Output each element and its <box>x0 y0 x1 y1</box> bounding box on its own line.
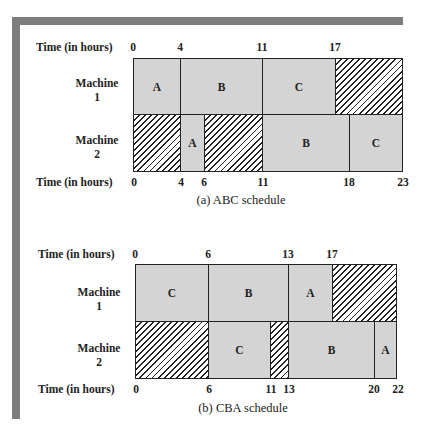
job-block-a: A <box>180 114 205 172</box>
idle-block <box>135 321 209 379</box>
time-axis-label-bottom: Time (in hours) <box>36 176 112 188</box>
machine-label-line: Machine <box>64 341 134 355</box>
tick: 18 <box>343 176 355 188</box>
idle-block <box>133 114 181 172</box>
tick: 4 <box>178 176 184 188</box>
machine-label-line: Machine <box>62 76 132 90</box>
machine-label-line: Machine <box>64 285 134 299</box>
idle-block <box>204 114 263 172</box>
tick: 0 <box>130 41 136 53</box>
tick: 6 <box>206 383 212 395</box>
time-axis-label-top: Time (in hours) <box>36 41 112 53</box>
idle-block <box>270 321 289 379</box>
caption-abc: (a) ABC schedule <box>197 193 286 208</box>
machine-2-label: Machine 2 <box>62 133 132 161</box>
tick: 0 <box>133 383 139 395</box>
idle-block <box>335 58 403 115</box>
job-block-c: C <box>135 264 209 322</box>
job-block-c: C <box>349 114 403 172</box>
tick: 0 <box>132 248 138 260</box>
tick: 20 <box>368 383 380 395</box>
tick: 6 <box>201 176 207 188</box>
tick: 11 <box>257 41 268 53</box>
time-axis-label-top: Time (in hours) <box>38 248 114 260</box>
machine-label-number: 2 <box>64 355 134 369</box>
machine-label-number: 2 <box>62 147 132 161</box>
job-block-b: B <box>180 58 263 115</box>
machine-1-label: Machine 1 <box>64 285 134 313</box>
tick: 4 <box>177 41 183 53</box>
tick: 11 <box>258 176 269 188</box>
tick: 0 <box>131 176 137 188</box>
tick: 17 <box>329 41 341 53</box>
tick: 17 <box>326 248 338 260</box>
tick: 13 <box>283 383 295 395</box>
caption-cba: (b) CBA schedule <box>198 401 288 416</box>
job-block-c: C <box>208 321 271 379</box>
machine-label-number: 1 <box>62 90 132 104</box>
job-block-a: A <box>288 264 333 322</box>
job-block-a: A <box>133 58 181 115</box>
idle-block <box>332 264 397 322</box>
job-block-a: A <box>374 321 397 379</box>
tick: 23 <box>397 176 409 188</box>
machine-label-number: 1 <box>64 299 134 313</box>
tick: 13 <box>282 248 294 260</box>
machine-1-label: Machine 1 <box>62 76 132 104</box>
frame-left-bar <box>12 17 20 419</box>
time-axis-label-bottom: Time (in hours) <box>38 383 114 395</box>
job-block-c: C <box>262 58 336 115</box>
machine-2-label: Machine 2 <box>64 341 134 369</box>
job-block-b: B <box>208 264 289 322</box>
job-block-b: B <box>288 321 375 379</box>
frame-top-bar <box>12 17 403 25</box>
job-block-b: B <box>262 114 350 172</box>
machine-label-line: Machine <box>62 133 132 147</box>
tick: 11 <box>266 383 277 395</box>
tick: 22 <box>392 383 404 395</box>
tick: 6 <box>205 248 211 260</box>
